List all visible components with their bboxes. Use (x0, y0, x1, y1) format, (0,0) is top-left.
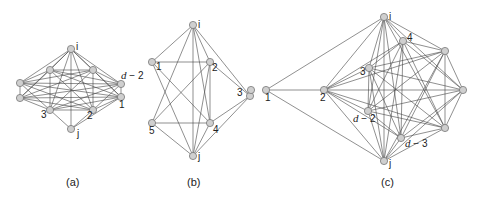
graph-edge (20, 70, 50, 83)
graph-edge (401, 41, 403, 138)
graph-edge (193, 25, 250, 96)
panel-caption-a: (a) (66, 176, 79, 188)
graph-node-a-i (67, 45, 74, 52)
graph-edge (20, 49, 71, 83)
node-label: d − 2 (121, 69, 144, 81)
graph-node-b-i (189, 21, 196, 28)
panel-captions: (a)(b)(c) (66, 176, 394, 188)
node-label: 1 (156, 61, 162, 72)
graph-edge (401, 51, 445, 138)
graph-node-a-ld (16, 94, 23, 101)
node-label: j (197, 151, 200, 162)
graph-edge (384, 41, 403, 161)
node-label: 5 (149, 125, 155, 136)
node-label: j (388, 158, 391, 169)
graph-edge (193, 25, 210, 62)
node-label: 3 (360, 66, 366, 77)
graph-edge (324, 17, 384, 90)
node-label: 4 (407, 32, 413, 43)
graph-edge (384, 138, 401, 161)
graph-node-c-rt (441, 47, 448, 54)
graph-node-a-tr (89, 66, 96, 73)
graph-edge (152, 25, 193, 62)
graph-edge (368, 111, 445, 128)
graph-node-a-n3 (46, 106, 53, 113)
panel-caption-b: (b) (187, 176, 200, 188)
node-label: d − 2 (353, 112, 376, 124)
graph-edge (20, 83, 121, 97)
graph-edge (193, 123, 210, 156)
graph-node-b-j (189, 152, 196, 159)
graph-node-c-rb (441, 124, 448, 131)
node-label: i (198, 19, 200, 30)
node-label: 1 (119, 99, 125, 110)
graph-edge (20, 70, 50, 98)
graph-edge (369, 51, 445, 68)
graph-edge (324, 90, 445, 128)
graph-edge (266, 17, 384, 90)
node-label: 2 (87, 110, 93, 121)
node-label: d − 3 (405, 137, 428, 149)
graph-node-a-d2 (117, 80, 124, 87)
graph-edge (324, 90, 368, 111)
graph-node-c-n3 (365, 64, 372, 71)
graph-edge (210, 96, 250, 123)
panel-caption-c: (c) (381, 176, 394, 188)
node-label: 3 (41, 109, 47, 120)
graph-node-a-j (67, 125, 74, 132)
node-label: i (389, 11, 391, 22)
graph-edge (93, 70, 121, 84)
node-label: 3 (237, 87, 243, 98)
graph-edge (384, 17, 463, 90)
graph-edge (445, 51, 463, 90)
graph-edge (445, 90, 463, 128)
node-label: i (76, 41, 78, 52)
graph-node-a-lu (16, 79, 23, 86)
graph-node-c-j (380, 157, 387, 164)
node-label: 2 (212, 62, 218, 73)
graph-edge (152, 123, 193, 156)
graph-node-c-i (380, 13, 387, 20)
graph-edge (71, 49, 121, 84)
graph-edge (324, 90, 384, 161)
graph-node-c-far (247, 86, 254, 93)
graph-edge (20, 70, 93, 98)
node-label: 1 (265, 92, 271, 103)
graph-figure: id − 2132ji12354j12i43d − 2d − 3j (a)(b)… (0, 0, 480, 197)
graph-edge (50, 110, 71, 129)
graph-edge (93, 97, 121, 110)
graph-node-c-d3 (397, 134, 404, 141)
graph-edge (368, 90, 463, 111)
node-label: 4 (213, 124, 219, 135)
graph-node-b-n1 (148, 58, 155, 65)
graph-edge (193, 96, 250, 156)
graph-node-c-n4 (399, 37, 406, 44)
graph-node-a-tl (46, 66, 53, 73)
node-label: 2 (320, 92, 326, 103)
node-label: j (76, 128, 79, 139)
graph-node-c-fr (459, 86, 466, 93)
